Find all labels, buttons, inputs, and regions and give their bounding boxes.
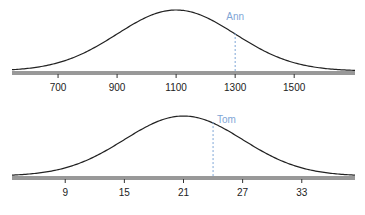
marker-label-ann: Ann: [226, 11, 244, 22]
x-axis-ticks-bottom: 915212733: [62, 179, 307, 198]
x-axis-tick-label: 21: [178, 187, 190, 198]
normal-curve-top: [12, 10, 355, 70]
chart-panel-top: 700900110013001500 Ann: [12, 10, 355, 93]
x-axis-tick-label: 1100: [165, 82, 187, 93]
x-axis-tick-label: 9: [62, 187, 68, 198]
x-axis-tick-label: 1500: [283, 82, 306, 93]
chart-panel-bottom: 915212733 Tom: [12, 114, 355, 198]
x-axis-tick-label: 33: [296, 187, 308, 198]
x-axis-tick-label: 700: [50, 82, 67, 93]
normal-curve-bottom: [12, 116, 355, 175]
x-axis-tick-label: 27: [237, 187, 249, 198]
marker-label-tom: Tom: [217, 114, 236, 125]
x-axis-tick-label: 900: [109, 82, 126, 93]
normal-distribution-charts: 700900110013001500 Ann 915212733 Tom: [0, 0, 365, 215]
x-axis-ticks-top: 700900110013001500: [50, 74, 306, 93]
x-axis-tick-label: 15: [119, 187, 131, 198]
x-axis-tick-label: 1300: [224, 82, 247, 93]
